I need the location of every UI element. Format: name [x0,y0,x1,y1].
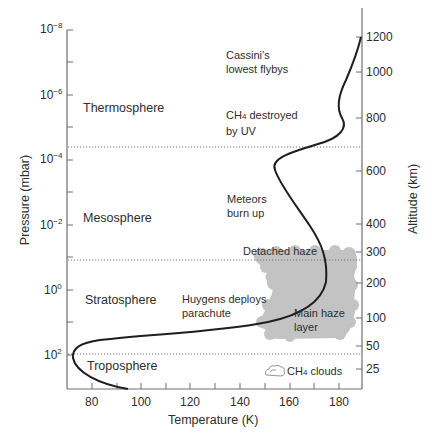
y-right-tick-600: 600 [366,164,386,178]
y-right-tick-400: 400 [366,217,386,231]
y-left-tick-1e0: 100 [44,283,62,297]
y-right-tick-100: 100 [366,311,386,325]
region-stratosphere: Stratosphere [85,293,157,307]
x-axis-title: Temperature (K) [168,413,258,427]
annotation-cassini-flybys: Cassini’s lowest flybys [226,48,288,76]
x-tick-160: 160 [279,395,299,409]
region-troposphere: Troposphere [87,359,157,373]
y-left-tick-1e-8: 10−8 [40,22,62,36]
x-tick-140: 140 [230,395,250,409]
y-right-tick-1200: 1200 [366,30,393,44]
annotation-detached-haze: Detached haze [243,244,317,258]
annotation-meteors: Meteors burn up [227,192,267,220]
y-left-tick-1e-6: 10−6 [40,88,62,102]
annotation-ch4-destroyed: CH4 destroyed by UV [226,108,298,138]
annotation-main-haze: Main haze layer [294,306,345,334]
y-left-tick-1e-4: 10−4 [40,152,62,166]
right-axis-ticks [356,37,362,369]
y-left-tick-1e-2: 10−2 [40,218,62,232]
y-right-tick-1000: 1000 [366,65,393,79]
y-right-tick-50: 50 [366,339,379,353]
y-left-axis-title: Pressure (mbar) [18,150,32,250]
x-tick-180: 180 [329,395,349,409]
annotation-ch4-clouds: CH4 clouds [287,364,342,380]
y-right-tick-25: 25 [366,362,379,376]
x-tick-120: 120 [180,395,200,409]
cloud-icon [265,365,284,376]
y-right-tick-800: 800 [366,111,386,125]
annotation-huygens-parachute: Huygens deploys parachute [182,292,266,320]
y-right-tick-300: 300 [366,245,386,259]
y-right-tick-200: 200 [366,276,386,290]
region-thermosphere: Thermosphere [83,101,164,115]
x-tick-80: 80 [85,395,98,409]
x-tick-100: 100 [131,395,151,409]
region-mesosphere: Mesosphere [83,211,152,225]
y-right-axis-title: Altitude (km) [406,149,420,249]
y-left-tick-1e2: 102 [44,348,62,362]
bottom-axis-ticks [92,383,339,389]
left-axis-ticks [67,30,73,355]
